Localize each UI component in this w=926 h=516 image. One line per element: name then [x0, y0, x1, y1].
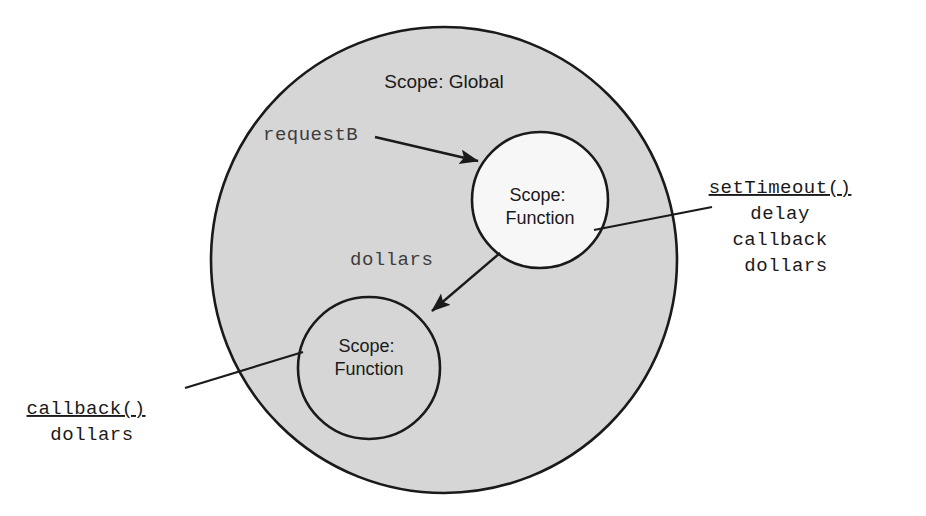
global-scope-label: Scope: Global — [384, 71, 503, 92]
function-scope-label-lower-line1: Scope: — [338, 336, 394, 356]
diagram-canvas: Scope: Global Scope: Function Scope: Fun… — [0, 0, 926, 516]
callback-callout: callback() dollars — [27, 398, 158, 446]
dollars-label: dollars — [350, 249, 433, 271]
function-scope-label-upper-line1: Scope: — [509, 185, 565, 205]
settimeout-callout-item-1: callback — [732, 229, 827, 251]
scope-diagram: Scope: Global Scope: Function Scope: Fun… — [0, 0, 926, 516]
settimeout-callout-item-0: delay — [750, 203, 810, 225]
callback-callout-item-0: dollars — [50, 424, 133, 446]
settimeout-callout-heading: setTimeout() — [709, 177, 852, 199]
global-scope-circle — [211, 27, 677, 493]
function-scope-label-lower-line2: Function — [334, 359, 403, 379]
callback-callout-heading: callback() — [27, 398, 146, 420]
requestB-label: requestB — [263, 124, 358, 146]
settimeout-callout: setTimeout() delay callback dollars — [709, 177, 864, 277]
settimeout-callout-item-2: dollars — [744, 255, 827, 277]
function-scope-label-upper-line2: Function — [505, 208, 574, 228]
